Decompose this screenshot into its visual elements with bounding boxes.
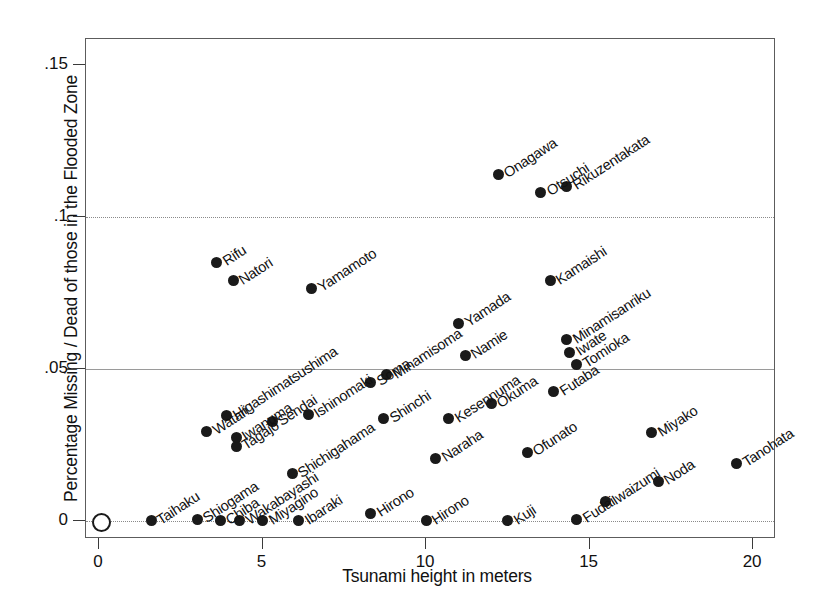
data-point-sendai bbox=[267, 416, 278, 427]
y-tick-.05 bbox=[73, 368, 85, 369]
x-tick-10 bbox=[425, 538, 426, 549]
data-point-label-hirono: Hirono bbox=[429, 492, 472, 528]
data-point-label-naraha: Naraha bbox=[439, 427, 486, 465]
data-point-label-minamisanriku: Minamisanriku bbox=[569, 284, 653, 346]
data-point-iwaizumi bbox=[600, 496, 611, 507]
data-point-chiba bbox=[215, 515, 226, 526]
data-point-label-kamaishi: Kamaishi bbox=[553, 243, 610, 288]
data-point-label-namie: Namie bbox=[468, 326, 511, 361]
data-point-hirono bbox=[365, 508, 376, 519]
data-point-minamisanriku bbox=[561, 334, 572, 345]
data-point-label-noda: Noda bbox=[661, 456, 698, 488]
data-point-label-wakabayashi: Wakabayashi bbox=[242, 469, 321, 528]
data-point-miyako bbox=[646, 427, 657, 438]
data-point-label-yamamoto: Yamamoto bbox=[314, 245, 379, 295]
data-point-namie bbox=[460, 350, 471, 361]
data-point-futaba bbox=[548, 386, 559, 397]
data-point-soma bbox=[365, 377, 376, 388]
data-point-label-ibaraki: Ibaraki bbox=[301, 491, 344, 527]
y-tick-0 bbox=[73, 520, 85, 521]
y-tick-label-.1: .1 bbox=[8, 206, 68, 226]
plot-area: TaihakuShiogamaChibaWakabayashiMiyaginoI… bbox=[85, 38, 775, 538]
x-tick-label-0: 0 bbox=[68, 552, 128, 572]
data-point-label-shinchi: Shinchi bbox=[386, 387, 433, 425]
data-point-label-iwaizumi: Iwaizumi bbox=[609, 465, 663, 508]
data-point-label-shiogama: Shiogama bbox=[200, 478, 261, 526]
data-point-kesennuma bbox=[443, 413, 454, 424]
data-point-noda bbox=[653, 476, 664, 487]
x-tick-label-20: 20 bbox=[722, 552, 782, 572]
data-point-label-okuma: Okuma bbox=[494, 372, 541, 410]
data-point-yamamoto bbox=[306, 283, 317, 294]
data-point-label-watari: Watari bbox=[210, 403, 252, 438]
data-point-label-kuji: Kuji bbox=[510, 502, 538, 528]
data-point-rifu bbox=[211, 257, 222, 268]
data-point-iwate bbox=[564, 347, 575, 358]
data-point-ibaraki bbox=[293, 515, 304, 526]
data-point-onagawa bbox=[493, 169, 504, 180]
data-point-tanohata bbox=[731, 458, 742, 469]
data-point-hirono bbox=[421, 515, 432, 526]
x-tick-5 bbox=[262, 538, 263, 549]
data-point-fudai bbox=[571, 514, 582, 525]
data-point-label-ofunato: Ofunato bbox=[530, 419, 580, 459]
data-point-yamada bbox=[453, 318, 464, 329]
data-point-label-rifu: Rifu bbox=[219, 242, 248, 269]
data-point-higashimatsushima bbox=[221, 410, 232, 421]
data-point-label-rikuzentakata: Rikuzentakata bbox=[569, 132, 652, 193]
data-point-natori bbox=[228, 275, 239, 286]
data-point-label-tomioka: Tomioka bbox=[579, 329, 631, 371]
data-point-kuji bbox=[502, 515, 513, 526]
data-point-iwanuma bbox=[231, 432, 242, 443]
data-point-label-shichigahama: Shichigahama bbox=[295, 419, 378, 481]
data-point-miyagino bbox=[257, 515, 268, 526]
data-point-okuma bbox=[486, 398, 497, 409]
data-point-label-soma: Soma bbox=[373, 356, 412, 389]
data-point-label-higashimatsushima: Higashimatsushima bbox=[229, 343, 340, 423]
data-point-label-natori: Natori bbox=[236, 254, 276, 288]
data-point-ishinomaki bbox=[303, 409, 314, 420]
data-point-otsuchi bbox=[535, 187, 546, 198]
data-point-label-iwate: Iwate bbox=[573, 327, 610, 358]
data-point-label-otsuchi: Otsuchi bbox=[543, 160, 591, 199]
y-tick-label-0: 0 bbox=[8, 510, 68, 530]
data-point-label-sendai: Sendai bbox=[275, 392, 320, 429]
y-tick-label-.15: .15 bbox=[8, 54, 68, 74]
x-tick-label-5: 5 bbox=[232, 552, 292, 572]
data-point-taihaku bbox=[146, 515, 157, 526]
data-point-tomioka bbox=[571, 359, 582, 370]
x-tick-label-10: 10 bbox=[395, 552, 455, 572]
y-tick-label-.05: .05 bbox=[8, 358, 68, 378]
data-point-label-tanohata: Tanohata bbox=[739, 425, 796, 470]
y-tick-.1 bbox=[73, 216, 85, 217]
x-tick-15 bbox=[589, 538, 590, 549]
data-point-kamaishi bbox=[545, 275, 556, 286]
data-point-label-yamada: Yamada bbox=[461, 289, 513, 330]
gridline-y-.1 bbox=[86, 217, 774, 218]
data-point-shiogama bbox=[192, 514, 203, 525]
data-point-label-miyako: Miyako bbox=[654, 402, 700, 439]
data-point-label-minamisoma: Minamisoma bbox=[389, 325, 464, 382]
x-tick-0 bbox=[98, 538, 99, 549]
data-point-wakabayashi bbox=[234, 515, 245, 526]
y-tick-.15 bbox=[73, 64, 85, 65]
data-point-origin bbox=[92, 513, 111, 532]
data-point-rikuzentakata bbox=[561, 181, 572, 192]
data-point-minamisoma bbox=[381, 369, 392, 380]
x-tick-label-15: 15 bbox=[559, 552, 619, 572]
x-tick-20 bbox=[752, 538, 753, 549]
data-point-label-onagawa: Onagawa bbox=[501, 135, 560, 181]
data-point-watari bbox=[201, 426, 212, 437]
data-point-label-hirono: Hirono bbox=[373, 484, 416, 520]
data-point-naraha bbox=[430, 453, 441, 464]
data-point-shichigahama bbox=[287, 468, 298, 479]
y-axis-title: Percentage Missing / Dead of those in th… bbox=[61, 9, 82, 569]
data-point-shinchi bbox=[378, 413, 389, 424]
gridline-y-.05 bbox=[86, 369, 774, 370]
scatter-chart-figure: Percentage Missing / Dead of those in th… bbox=[0, 0, 825, 615]
data-point-ofunato bbox=[522, 447, 533, 458]
